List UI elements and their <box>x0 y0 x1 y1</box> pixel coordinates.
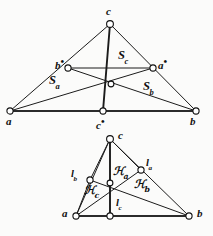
top-region-label-Sb: Sb <box>143 80 154 95</box>
top-region-label-Sc: Sc <box>118 49 129 64</box>
bottom-label-lb: lb <box>71 169 77 182</box>
bottom-label-a: a <box>62 208 68 219</box>
bottom-region-label-Hb: ℋb <box>134 179 150 193</box>
star-dot-icon: • <box>164 56 168 67</box>
top-vertex-b-node <box>193 108 199 114</box>
bottom-vertex-c-node <box>107 136 114 143</box>
top-label-b: b <box>190 116 196 127</box>
star-dot-icon: • <box>61 56 65 67</box>
bottom-vertex-a-node <box>73 213 79 219</box>
bottom-label-la: la <box>146 158 152 171</box>
bottom-label-lc: lc <box>116 198 122 211</box>
top-panel-group <box>7 21 199 115</box>
star-dot-icon: • <box>101 116 105 127</box>
geometry-figure: c a b c• b• a• Sa Sb Sc c a b la lb lc <box>0 0 213 236</box>
top-label-a-star: a• <box>158 56 167 71</box>
top-label-c: c <box>106 6 111 17</box>
top-label-b-star: b• <box>55 56 64 71</box>
bottom-label-c: c <box>118 130 123 141</box>
bottom-region-label-Hc: ℋc <box>84 185 100 199</box>
top-label-c-star: c• <box>96 116 105 131</box>
bottom-panel-group <box>73 136 192 219</box>
top-vertex-a-node <box>7 108 13 114</box>
bottom-label-b: b <box>197 208 203 219</box>
bottom-region-label-Ha: ℋa <box>113 166 129 180</box>
bottom-orthocenter-node <box>107 180 113 186</box>
top-region-label-Sa: Sa <box>49 74 60 89</box>
bottom-foot-lc-node <box>107 213 113 219</box>
top-midpoint-cstar-node <box>100 108 106 114</box>
bottom-segment-c-lb <box>90 139 110 180</box>
top-midpoint-astar-node <box>150 65 156 71</box>
top-midpoint-bstar-node <box>65 65 71 71</box>
diagram-canvas <box>0 0 213 236</box>
bottom-vertex-b-node <box>186 213 192 219</box>
bottom-foot-la-node <box>138 167 144 173</box>
top-centroid-node <box>108 81 114 87</box>
top-label-a: a <box>6 116 12 127</box>
top-vertex-c-node <box>107 21 114 28</box>
